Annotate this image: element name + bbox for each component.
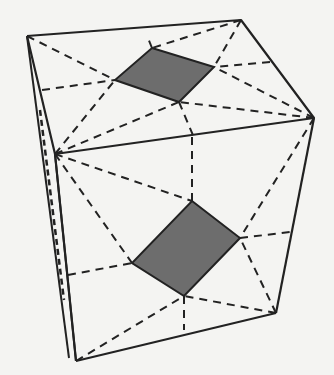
box-diagram [0,0,334,375]
top-shaded-quad [115,48,214,102]
left-face [27,36,76,361]
diagram-canvas [0,0,334,375]
front-shaded-quad [132,201,240,296]
